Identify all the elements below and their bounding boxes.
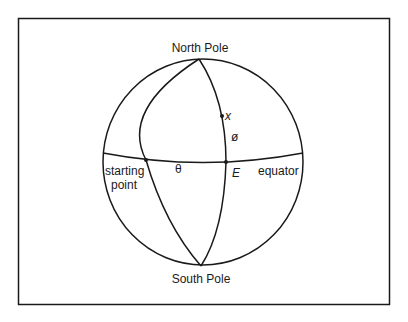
phi-label: ø xyxy=(231,130,239,144)
theta-label: θ xyxy=(175,162,182,176)
point-x-label: x xyxy=(224,109,232,123)
starting-point-label-line2: point xyxy=(111,178,138,192)
north-pole-label: North Pole xyxy=(172,41,229,55)
starting-point-marker xyxy=(144,158,148,162)
point-e-label: E xyxy=(232,166,241,180)
south-pole-label: South Pole xyxy=(172,272,231,286)
equator-label: equator xyxy=(258,164,299,178)
globe-diagram: North Pole South Pole starting point equ… xyxy=(0,0,408,322)
starting-point-label-line1: starting xyxy=(105,164,144,178)
point-x-marker xyxy=(220,114,224,118)
point-e-marker xyxy=(224,160,228,164)
equator-line xyxy=(103,153,303,163)
